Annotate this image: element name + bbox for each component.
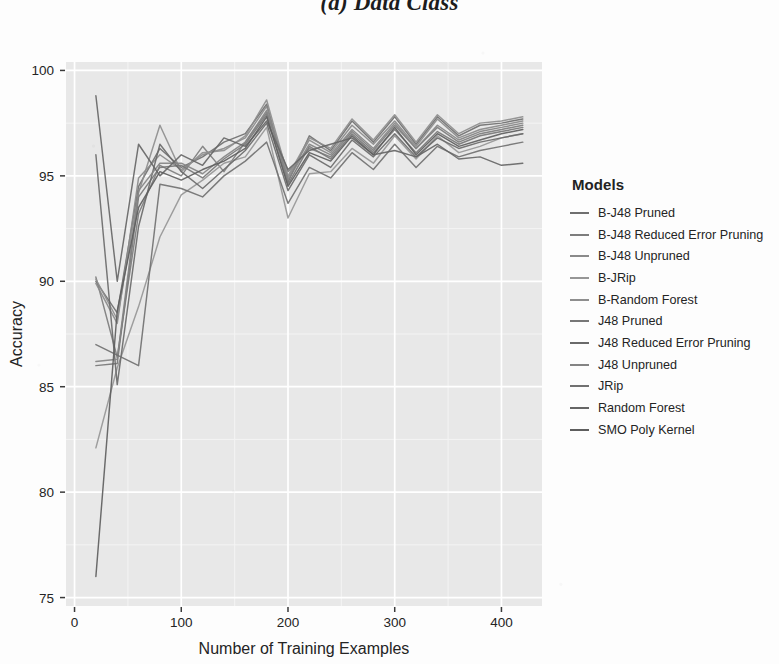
legend-item[interactable]: B-Random Forest <box>570 289 775 311</box>
x-axis-tick-label: 100 <box>170 615 193 630</box>
legend-title: Models <box>572 176 775 193</box>
y-axis-tick-label: 95 <box>39 169 54 184</box>
y-axis-title: Accuracy <box>8 301 25 367</box>
legend-item[interactable]: SMO Poly Kernel <box>570 419 775 441</box>
legend: Models B-J48 PrunedB-J48 Reduced Error P… <box>570 176 775 441</box>
y-axis-tick-label: 75 <box>39 591 54 606</box>
legend-line-swatch-icon <box>570 255 589 257</box>
legend-line-swatch-icon <box>570 234 589 236</box>
legend-line-swatch-icon <box>570 277 589 279</box>
y-axis-tick-label: 90 <box>39 274 54 289</box>
legend-item-label: B-J48 Reduced Error Pruning <box>598 228 763 242</box>
legend-line-swatch-icon <box>570 299 589 301</box>
legend-line-swatch-icon <box>570 342 589 344</box>
legend-item[interactable]: B-J48 Reduced Error Pruning <box>570 224 775 246</box>
legend-item-label: Random Forest <box>598 401 685 415</box>
y-axis-tick-label: 85 <box>39 380 54 395</box>
legend-item[interactable]: Random Forest <box>570 397 775 419</box>
legend-item[interactable]: B-J48 Pruned <box>570 202 775 224</box>
legend-item[interactable]: B-JRip <box>570 267 775 289</box>
legend-item[interactable]: B-J48 Unpruned <box>570 245 775 267</box>
x-axis-tick-label: 0 <box>71 615 79 630</box>
legend-line-swatch-icon <box>570 212 589 214</box>
legend-line-swatch-icon <box>570 429 589 431</box>
legend-item-label: J48 Pruned <box>598 314 662 328</box>
x-axis-tick-label: 300 <box>383 615 406 630</box>
x-axis-tick-label: 200 <box>277 615 300 630</box>
legend-item-label: B-J48 Pruned <box>598 206 675 220</box>
legend-item-label: B-Random Forest <box>598 293 697 307</box>
legend-item-list: B-J48 PrunedB-J48 Reduced Error PruningB… <box>570 202 775 441</box>
legend-line-swatch-icon <box>570 364 589 366</box>
y-axis-tick-label: 80 <box>39 485 54 500</box>
legend-line-swatch-icon <box>570 407 589 409</box>
legend-item-label: B-JRip <box>598 271 636 285</box>
x-axis-title: Number of Training Examples <box>199 640 410 657</box>
legend-item-label: B-J48 Unpruned <box>598 249 690 263</box>
legend-item-label: J48 Unpruned <box>598 358 677 372</box>
legend-item-label: SMO Poly Kernel <box>598 423 695 437</box>
legend-item-label: J48 Reduced Error Pruning <box>598 336 751 350</box>
x-axis-tick-label: 400 <box>490 615 513 630</box>
y-axis-tick-label: 100 <box>31 63 54 78</box>
legend-item-label: JRip <box>598 379 623 393</box>
legend-item[interactable]: J48 Unpruned <box>570 354 775 376</box>
legend-line-swatch-icon <box>570 385 589 387</box>
legend-item[interactable]: J48 Pruned <box>570 310 775 332</box>
legend-item[interactable]: J48 Reduced Error Pruning <box>570 332 775 354</box>
legend-item[interactable]: JRip <box>570 376 775 398</box>
legend-line-swatch-icon <box>570 320 589 322</box>
